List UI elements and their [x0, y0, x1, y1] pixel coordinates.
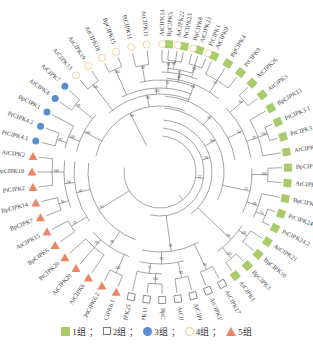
leaf-label: AtCIPK3	[266, 72, 289, 92]
leaf-label: BpCIPK1	[17, 93, 42, 111]
group3-marker-icon	[37, 123, 44, 130]
triangle-filled-icon	[226, 327, 236, 336]
leaf-label: AtCIPK24	[295, 179, 313, 188]
bootstrap-value: 98	[226, 234, 230, 238]
square-filled-icon	[61, 327, 70, 336]
bootstrap-value: 98	[203, 263, 207, 267]
legend: 1组 ； 2组 ； 3组 ； 4组 ； 5组	[0, 322, 313, 340]
bootstrap-value: 38	[207, 116, 211, 120]
bootstrap-value: 100	[153, 277, 159, 281]
square-open-icon	[103, 327, 111, 335]
leaf-label: AtCIPK15	[14, 232, 41, 251]
group1-marker-icon	[283, 179, 292, 188]
bootstrap-value: 100	[114, 70, 120, 74]
group1-marker-icon	[270, 223, 281, 234]
bootstrap-value: 100	[115, 266, 121, 270]
bootstrap-value: 53	[244, 187, 248, 191]
group5-marker-icon	[51, 241, 60, 249]
legend-label: 3组	[154, 325, 168, 338]
group1-marker-icon	[257, 89, 268, 100]
group4-marker-icon	[98, 54, 105, 61]
bootstrap-value: 98	[253, 202, 257, 206]
legend-label: 1组	[72, 325, 86, 338]
leaf-label: PtCIPK2	[2, 184, 25, 194]
bootstrap-value: 98	[146, 96, 150, 100]
bootstrap-value: 54	[237, 130, 241, 134]
bootstrap-value: 100	[53, 169, 59, 173]
leaf-label: AtCIPK18	[84, 25, 102, 52]
group1-marker-icon	[273, 117, 283, 127]
group3-marker-icon	[43, 108, 50, 115]
leaf-label: AtCIPK17	[224, 289, 243, 316]
group2-marker-icon	[127, 293, 135, 301]
leaf-label: AtCIPK1	[238, 279, 257, 302]
leaf-label: AtCIPK20	[50, 272, 73, 297]
bootstrap-value: 100	[241, 231, 247, 235]
group2-marker-icon	[203, 286, 212, 295]
leaf-label: BpCIPK14	[0, 200, 28, 213]
leaf-label: AtCIPK25	[193, 302, 207, 320]
bootstrap-value: 96	[204, 156, 208, 160]
group5-marker-icon	[31, 198, 40, 206]
group2-marker-icon	[159, 296, 166, 303]
leaf-label: AtCIPK7	[40, 62, 62, 83]
group4-marker-icon	[190, 45, 197, 52]
group4-marker-icon	[73, 72, 80, 79]
legend-label: 2组	[113, 325, 127, 338]
leaf-label: BpCIPK10	[263, 256, 289, 279]
group5-marker-icon	[97, 282, 106, 290]
group1-marker-icon	[265, 103, 276, 114]
legend-item-group2: 2组 ；	[103, 325, 142, 338]
leaf-label: PtCIPK25	[119, 303, 132, 320]
leaf-label: AtCIPK16	[209, 296, 225, 320]
group4-marker-icon	[85, 62, 92, 69]
leaf-label: PtCIPK3.1	[283, 104, 311, 121]
bootstrap-value: 99	[213, 81, 217, 85]
leaf-label: BpCIPK3	[251, 268, 273, 291]
bootstrap-value: 71	[148, 266, 152, 270]
leaf-label: PtCIPK6.1	[100, 298, 116, 320]
leaf-label: AtCIPK2	[2, 148, 26, 158]
group2-marker-icon	[189, 291, 198, 300]
leaf-label: AtCIPK11	[141, 10, 151, 37]
bootstrap-value: 87	[172, 62, 176, 66]
group1-marker-icon	[222, 58, 233, 69]
leaf-label: PtCIPK6.2	[82, 291, 100, 318]
circle-open-icon	[185, 327, 194, 336]
bootstrap-value: 98	[130, 114, 134, 118]
leaf-label: BpCIPK12	[293, 196, 313, 209]
group4-marker-icon	[143, 41, 150, 48]
bootstrap-value: 61	[100, 205, 104, 209]
legend-label: 4组	[196, 325, 210, 338]
leaf-label: PtCIPK24.1	[288, 212, 313, 228]
bootstrap-value: 73	[165, 81, 169, 85]
bootstrap-value: 100	[261, 132, 267, 136]
leaf-label: AtCIPK13	[52, 46, 75, 71]
bootstrap-value: 92	[73, 221, 77, 225]
bootstrap-value: 100	[226, 252, 232, 256]
group5-marker-icon	[28, 183, 37, 191]
leaf-label: AtCIPK14	[158, 9, 165, 36]
group4-marker-icon	[204, 50, 211, 57]
bootstrap-value: 100	[93, 85, 99, 89]
group3-marker-icon	[52, 95, 59, 102]
bootstrap-value: 91	[61, 200, 65, 204]
group1-marker-icon	[235, 67, 246, 78]
group1-marker-icon	[242, 260, 253, 271]
leaf-label: AtCIPK21	[273, 242, 299, 262]
leaf-label: PtCIPK24.2	[281, 228, 311, 247]
leaf-labels: BpCIPK5PtCIPK23AtCIPK23AtCIPK9BpCIPK4PtC…	[0, 9, 313, 320]
leaf-label: AtCIPK6	[67, 282, 86, 305]
leaf-label: BpCIPK7	[9, 216, 34, 231]
leaf-label: PtCIPK20	[37, 260, 61, 282]
group5-marker-icon	[72, 264, 81, 272]
group1-marker-icon	[262, 236, 273, 247]
group5-marker-icon	[42, 228, 51, 236]
legend-item-group3: 3组 ；	[143, 325, 183, 338]
group4-marker-icon	[128, 44, 135, 51]
group2-marker-icon	[174, 295, 182, 303]
group4-marker-icon	[174, 42, 181, 49]
leaf-label: PtCIPK11	[121, 14, 133, 40]
leaf-label: BpCIPK5	[165, 12, 174, 37]
bootstrap-value: 87	[59, 138, 63, 142]
